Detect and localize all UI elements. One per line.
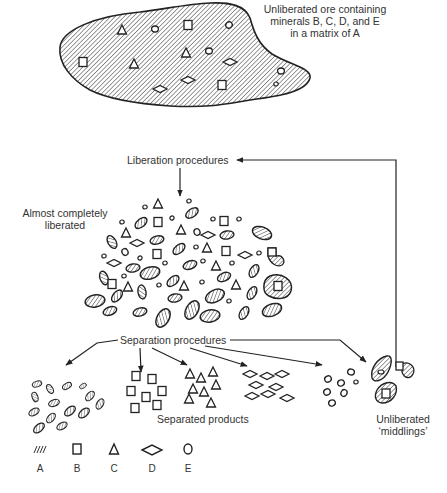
unliberated-middlings	[372, 356, 414, 403]
middlings-line-1: Unliberated	[368, 413, 438, 425]
middlings-line-2: ‘middlings’	[368, 425, 438, 437]
legend-label-a: A	[32, 463, 48, 474]
separated-products-label: Separated products	[157, 413, 249, 425]
legend-label-e: E	[180, 463, 196, 474]
almost-liberated-label: Almost completely liberated	[20, 207, 110, 231]
ore-label: Unliberated ore containing minerals B, C…	[255, 3, 395, 39]
legend	[34, 444, 192, 455]
separated-product-e	[323, 368, 359, 407]
middlings-label: Unliberated ‘middlings’	[368, 413, 438, 437]
ore-label-line-3: in a matrix of A	[255, 27, 395, 39]
legend-c-triangle-icon	[110, 444, 119, 454]
liberated-particle-pile	[84, 199, 291, 330]
separated-product-b	[127, 372, 166, 413]
recycle-arrow	[237, 160, 396, 367]
separated-product-c	[185, 367, 221, 407]
liberation-procedures-label: Liberation procedures	[127, 154, 229, 166]
ore-label-line-2: minerals B, C, D, and E	[255, 15, 395, 27]
legend-d-diamond-icon	[142, 445, 162, 455]
separated-product-a	[28, 380, 106, 435]
legend-label-d: D	[144, 463, 160, 474]
legend-label-c: C	[106, 463, 122, 474]
almost-liberated-line-2: liberated	[20, 219, 110, 231]
legend-e-circle-icon	[184, 444, 192, 454]
ore-label-line-1: Unliberated ore containing	[255, 3, 395, 15]
legend-a-hatch-icon	[34, 446, 46, 453]
almost-liberated-line-1: Almost completely	[20, 207, 110, 219]
legend-label-b: B	[69, 463, 85, 474]
separated-product-d	[243, 370, 294, 401]
separation-procedures-label: Separation procedures	[120, 334, 226, 346]
legend-b-square-icon	[73, 444, 81, 454]
